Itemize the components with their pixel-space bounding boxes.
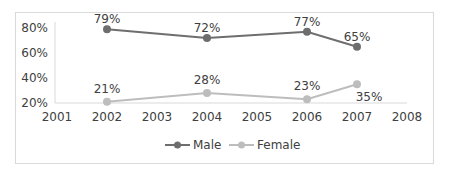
- data-label: 21%: [94, 82, 121, 96]
- data-point-marker[interactable]: [303, 28, 311, 36]
- x-tick-label: 2003: [142, 110, 173, 124]
- data-label: 28%: [194, 73, 221, 87]
- data-label: 72%: [194, 21, 221, 35]
- legend-item-female[interactable]: Female: [229, 138, 300, 152]
- legend-male-label: Male: [193, 138, 221, 152]
- series-layer: 79%72%77%65%21%28%23%35%: [94, 12, 383, 106]
- y-tick-label: 40%: [21, 71, 48, 85]
- data-point-marker[interactable]: [353, 80, 361, 88]
- data-label: 79%: [94, 12, 121, 26]
- series-line: [107, 29, 357, 47]
- legend-item-male[interactable]: Male: [165, 138, 221, 152]
- x-tick-label: 2001: [42, 110, 73, 124]
- legend-female-label: Female: [257, 138, 300, 152]
- data-label: 65%: [344, 30, 371, 44]
- x-tick-label: 2008: [392, 110, 423, 124]
- data-point-marker[interactable]: [103, 25, 111, 33]
- x-tick-label: 2006: [292, 110, 323, 124]
- data-point-marker[interactable]: [353, 43, 361, 51]
- legend-male-marker-icon: [174, 142, 181, 149]
- y-tick-label: 60%: [21, 46, 48, 60]
- data-label: 23%: [294, 79, 321, 93]
- data-point-marker[interactable]: [103, 98, 111, 106]
- y-axis-tick-labels: 80%60%40%20%: [21, 21, 48, 110]
- data-point-marker[interactable]: [203, 89, 211, 97]
- y-tick-label: 20%: [21, 96, 48, 110]
- data-point-marker[interactable]: [203, 34, 211, 42]
- x-tick-label: 2004: [192, 110, 223, 124]
- series-female: 21%28%23%35%: [94, 73, 383, 106]
- data-label: 77%: [294, 15, 321, 29]
- y-tick-label: 80%: [21, 21, 48, 35]
- x-axis-tick-labels: 20012002200320042005200620072008: [42, 110, 423, 124]
- x-tick-label: 2002: [92, 110, 123, 124]
- x-tick-label: 2005: [242, 110, 273, 124]
- data-label: 35%: [356, 90, 383, 104]
- legend: Male Female: [165, 138, 300, 152]
- x-tick-label: 2007: [342, 110, 373, 124]
- line-chart: 80%60%40%20% 200120022003200420052006200…: [0, 0, 450, 175]
- data-point-marker[interactable]: [303, 95, 311, 103]
- legend-female-marker-icon: [238, 142, 245, 149]
- series-male: 79%72%77%65%: [94, 12, 371, 51]
